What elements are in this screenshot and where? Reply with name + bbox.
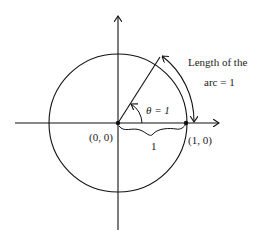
radius-brace <box>119 124 186 135</box>
radius-label: 1 <box>151 140 157 152</box>
angle-arc <box>131 104 142 123</box>
arc-label-line2: arc = 1 <box>204 76 235 88</box>
angle-label: θ = 1 <box>146 104 170 116</box>
origin-label: (0, 0) <box>89 131 113 144</box>
origin-point <box>116 121 120 125</box>
point-label: (1, 0) <box>188 134 212 147</box>
unit-circle-diagram: (0, 0) (1, 0) 1 θ = 1 Length of the arc … <box>0 0 266 240</box>
arc-label-line1: Length of the <box>188 56 247 68</box>
unit-point <box>184 121 188 125</box>
